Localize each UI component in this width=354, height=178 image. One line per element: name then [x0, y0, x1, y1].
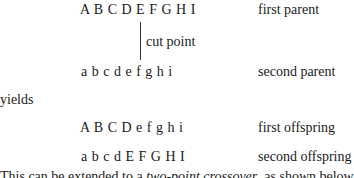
cut-point-label: cut point	[146, 34, 195, 50]
footer-paragraph: This can be extended to a two-point cros…	[0, 169, 354, 178]
footer-text-after: , as shown below	[257, 169, 353, 178]
second-offspring-sequence: a b c d E F G H I	[81, 149, 185, 165]
second-parent-label: second parent	[258, 64, 335, 80]
first-offspring-label: first offspring	[258, 120, 335, 136]
footer-text-before: This can be extended to a	[0, 169, 146, 178]
first-parent-label: first parent	[258, 2, 319, 18]
cut-point-line	[140, 22, 141, 60]
yields-text: yields	[0, 92, 33, 108]
footer-emphasis: two-point crossover	[146, 169, 257, 178]
first-parent-sequence: A B C D E F G H I	[80, 2, 195, 18]
second-parent-sequence: a b c d e f g h i	[81, 64, 172, 80]
first-offspring-sequence: A B C D e f g h i	[80, 120, 183, 136]
second-offspring-label: second offspring	[258, 149, 351, 165]
